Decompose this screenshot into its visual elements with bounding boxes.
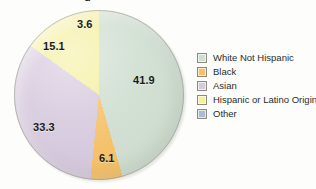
pie-slice-value-5: 3.6 — [77, 18, 93, 30]
legend-swatch-icon — [197, 109, 207, 119]
legend-item-4[interactable]: Hispanic or Latino Origin — [197, 93, 316, 107]
legend-swatch-icon — [197, 53, 207, 63]
pie-chart: 41.96.133.315.13.6 — [14, 10, 184, 180]
legend-swatch-icon — [197, 67, 207, 77]
legend-item-label: Other — [213, 109, 237, 119]
pie-slice-value-2: 6.1 — [99, 152, 115, 164]
legend-item-5[interactable]: Other — [197, 107, 316, 121]
chart-title-fragment: g — [84, 0, 91, 1]
legend-item-3[interactable]: Asian — [197, 79, 316, 93]
chart-legend: White Not HispanicBlackAsianHispanic or … — [197, 51, 316, 121]
legend-item-2[interactable]: Black — [197, 65, 316, 79]
legend-item-1[interactable]: White Not Hispanic — [197, 51, 316, 65]
legend-item-label: Hispanic or Latino Origin — [213, 95, 316, 105]
legend-swatch-icon — [197, 81, 207, 91]
legend-item-label: White Not Hispanic — [213, 53, 294, 63]
legend-swatch-icon — [197, 95, 207, 105]
legend-item-label: Asian — [213, 81, 237, 91]
chart-canvas: g 41.96.133.315.13.6 White Not HispanicB… — [0, 0, 316, 189]
pie-slice-value-1: 41.9 — [133, 74, 155, 86]
pie-slice-value-3: 33.3 — [33, 121, 55, 133]
pie-slice-value-4: 15.1 — [43, 40, 65, 52]
legend-item-label: Black — [213, 67, 236, 77]
